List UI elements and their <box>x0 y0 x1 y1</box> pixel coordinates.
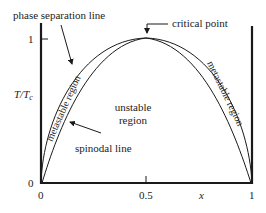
x-axis-label: x <box>198 189 204 201</box>
critical-point-label: critical point <box>172 17 228 29</box>
critical-point-arrow <box>147 24 168 33</box>
x-tick-label-0: 0 <box>38 189 44 201</box>
phase-separation-arrow <box>61 25 72 64</box>
y-tick-label-0: 0 <box>28 177 34 189</box>
x-tick-label-0.5: 0.5 <box>139 189 153 201</box>
phase-diagram: phase separation line critical point spi… <box>0 0 266 213</box>
unstable-label-line1: unstable <box>115 101 152 113</box>
spinodal-arrow <box>70 122 101 133</box>
y-axis-label: T/Tc <box>14 88 33 102</box>
unstable-label-line2: region <box>119 114 148 126</box>
spinodal-label: spinodal line <box>75 142 132 154</box>
phase-separation-label: phase separation line <box>13 9 105 21</box>
x-tick-label-1: 1 <box>249 189 255 201</box>
metastable-left-label: metastable region <box>44 74 83 143</box>
y-tick-label-1: 1 <box>28 33 34 45</box>
